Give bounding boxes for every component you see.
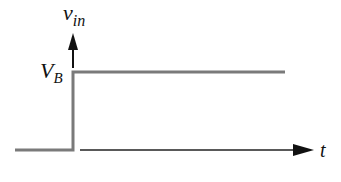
y-axis-arrow-icon xyxy=(68,33,78,68)
time-axis-arrow-icon xyxy=(80,144,314,156)
x-axis-label: t xyxy=(320,139,326,161)
level-label: VB xyxy=(40,58,63,86)
y-axis-label: vin xyxy=(63,0,85,29)
step-input-diagram: vin VB t xyxy=(0,0,341,182)
